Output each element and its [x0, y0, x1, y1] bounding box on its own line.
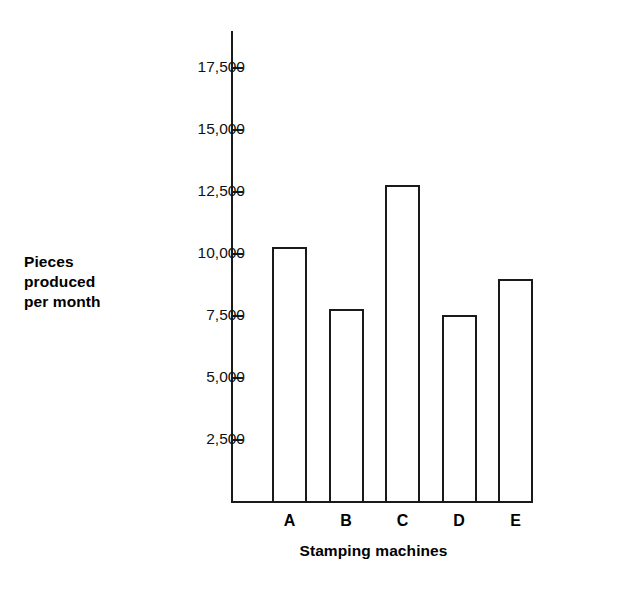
- plot-area: 2,5005,0007,50010,00012,50015,00017,500 …: [0, 0, 627, 591]
- bar-e: [498, 279, 533, 503]
- x-axis-title: Stamping machines: [231, 542, 516, 560]
- category-label-b: B: [326, 511, 366, 531]
- category-label-c: C: [383, 511, 423, 531]
- bar-d: [442, 315, 477, 503]
- y-axis-tick-label-text: 12,500: [153, 183, 245, 199]
- y-axis-tick-label: 17,500: [130, 59, 245, 75]
- y-axis-tick-label-text: 2,500: [153, 431, 245, 447]
- category-label-e: E: [496, 511, 536, 531]
- category-label-a: A: [270, 511, 310, 531]
- y-axis-tick-label: 15,000: [130, 121, 245, 137]
- y-axis-tick-label-text: 17,500: [153, 59, 245, 75]
- y-axis-tick-label-text: 5,000: [153, 369, 245, 385]
- y-axis-tick-label: 2,500: [130, 431, 245, 447]
- bar-c: [385, 185, 420, 503]
- y-axis-tick-label: 10,000: [130, 245, 245, 261]
- y-axis-tick-label-text: 15,000: [153, 121, 245, 137]
- bar-a: [272, 247, 307, 503]
- bar-chart-figure: Pieces produced per month 2,5005,0007,50…: [0, 0, 627, 591]
- y-axis-tick-label: 7,500: [130, 307, 245, 323]
- y-axis-tick-label: 12,500: [130, 183, 245, 199]
- y-axis-tick-label-text: 10,000: [153, 245, 245, 261]
- bar-b: [329, 309, 364, 503]
- y-axis-tick-label: 5,000: [130, 369, 245, 385]
- category-label-d: D: [439, 511, 479, 531]
- y-axis-tick-label-text: 7,500: [153, 307, 245, 323]
